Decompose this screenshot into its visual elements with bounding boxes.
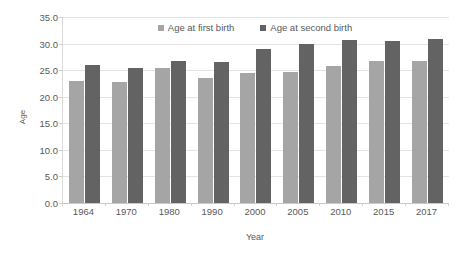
bar-group [149, 17, 192, 203]
y-axis-tick-label: 0.0 [20, 198, 58, 209]
x-axis-tick-label: 1970 [116, 206, 137, 217]
bar [428, 39, 443, 203]
legend-item-label: Age at first birth [168, 22, 235, 33]
x-axis-tick-mark [362, 203, 363, 206]
x-axis-tick-label: 1964 [73, 206, 94, 217]
bar [171, 61, 186, 203]
x-axis-tick-labels: 196419701980199020002005201020152017 [62, 206, 448, 224]
bar [369, 61, 384, 203]
bars-layer [63, 17, 449, 203]
x-axis-tick-mark [405, 203, 406, 206]
bar [342, 40, 357, 203]
x-axis-tick-label: 1980 [159, 206, 180, 217]
x-axis-tick-label: 1990 [202, 206, 223, 217]
x-axis-tick-mark [191, 203, 192, 206]
bar-group [406, 17, 449, 203]
bar [240, 73, 255, 203]
bar [214, 62, 229, 203]
x-axis-tick-label: 2005 [287, 206, 308, 217]
x-axis-tick-mark [62, 203, 63, 206]
bar [155, 68, 170, 203]
y-axis-tick-label: 30.0 [20, 38, 58, 49]
x-axis-title: Year [62, 232, 448, 242]
grouped-bar-chart: Age 0.05.010.015.020.025.030.035.0 19641… [0, 0, 455, 257]
bar-group [63, 17, 106, 203]
bar [299, 44, 314, 203]
bar [256, 49, 271, 203]
bar [326, 66, 341, 203]
bar [112, 82, 127, 203]
bar [283, 72, 298, 203]
y-axis-tick-label: 5.0 [20, 171, 58, 182]
y-axis-tick-label: 15.0 [20, 118, 58, 129]
x-axis-tick-mark [234, 203, 235, 206]
chart-legend: Age at first birthAge at second birth [62, 22, 448, 33]
x-axis-tick-mark [148, 203, 149, 206]
legend-square-icon [260, 25, 266, 31]
plot-area [62, 17, 449, 203]
y-axis-tick-label: 35.0 [20, 12, 58, 23]
legend-item[interactable]: Age at first birth [158, 22, 235, 33]
gridline [63, 203, 449, 204]
x-axis-tick-mark [448, 203, 449, 206]
y-axis-tick-label: 10.0 [20, 144, 58, 155]
bar-group [235, 17, 278, 203]
x-axis-tick-mark [276, 203, 277, 206]
legend-square-icon [158, 25, 164, 31]
x-axis-tick-mark [319, 203, 320, 206]
y-axis-tick-label: 25.0 [20, 65, 58, 76]
x-axis-tick-label: 2010 [330, 206, 351, 217]
bar-group [192, 17, 235, 203]
bar [385, 41, 400, 203]
x-axis-tick-label: 2000 [244, 206, 265, 217]
legend-item[interactable]: Age at second birth [260, 22, 352, 33]
bar [128, 68, 143, 203]
bar [198, 78, 213, 203]
y-axis-tick-labels: 0.05.010.015.020.025.030.035.0 [20, 0, 58, 257]
bar [69, 81, 84, 203]
x-axis-tick-label: 2015 [373, 206, 394, 217]
x-axis-tick-label: 2017 [416, 206, 437, 217]
bar [85, 65, 100, 203]
bar-group [277, 17, 320, 203]
bar-group [320, 17, 363, 203]
legend-item-label: Age at second birth [270, 22, 352, 33]
y-axis-tick-label: 20.0 [20, 91, 58, 102]
bar-group [106, 17, 149, 203]
bar [412, 61, 427, 203]
x-axis-tick-mark [105, 203, 106, 206]
bar-group [363, 17, 406, 203]
